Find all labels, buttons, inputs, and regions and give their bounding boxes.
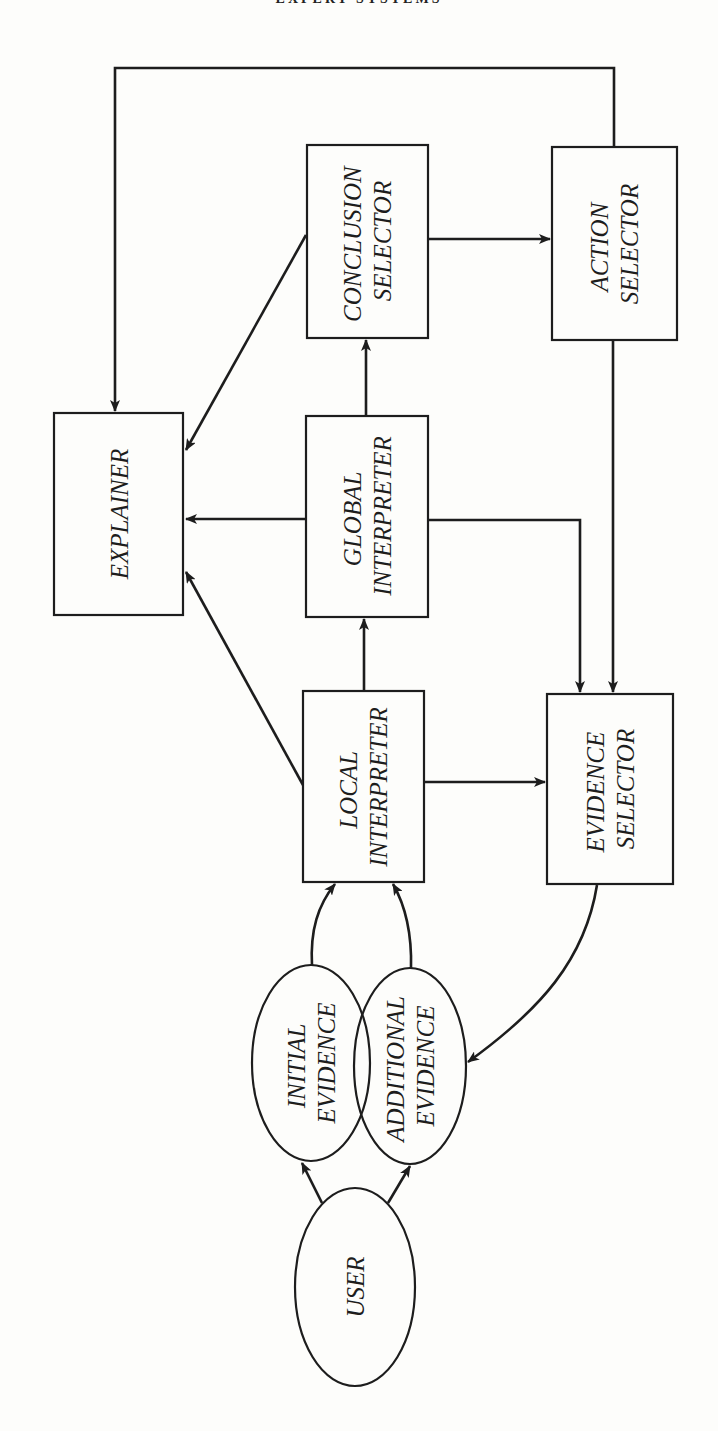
evidence-selector-label: EVIDENCE SELECTOR: [582, 725, 639, 853]
expert-system-diagram: EXPLAINER CONCLUSION SELECTOR ACTION SEL…: [0, 0, 718, 1431]
action-selector-label: ACTION SELECTOR: [586, 184, 643, 304]
additional-evidence-label: ADDITIONAL EVIDENCE: [382, 990, 439, 1144]
local-interpreter-box: [303, 691, 424, 882]
edge-conclusion-to-explainer: [186, 235, 306, 450]
global-interpreter-box: [306, 416, 428, 617]
conclusion-selector-box: [307, 145, 428, 338]
explainer-label: EXPLAINER: [106, 449, 133, 581]
edge-user-to-additional: [388, 1166, 410, 1203]
edge-user-to-initial: [302, 1163, 322, 1203]
edge-evidence-to-additional: [468, 885, 597, 1062]
evidence-selector-box: [547, 694, 673, 884]
edge-initial-to-local: [312, 884, 335, 966]
initial-evidence-label: INITIAL EVIDENCE: [283, 1003, 340, 1125]
initial-evidence-ellipse: [252, 965, 370, 1161]
edge-additional-to-local: [393, 884, 411, 968]
local-interpreter-label: LOCAL INTERPRETER: [335, 707, 392, 868]
action-selector-box: [552, 147, 677, 340]
edge-global-to-evidence: [428, 520, 580, 692]
user-label: USER: [342, 1256, 369, 1317]
edge-local-to-explainer: [186, 572, 303, 785]
global-interpreter-label: GLOBAL INTERPRETER: [339, 436, 396, 597]
conclusion-selector-label: CONCLUSION SELECTOR: [339, 160, 396, 322]
